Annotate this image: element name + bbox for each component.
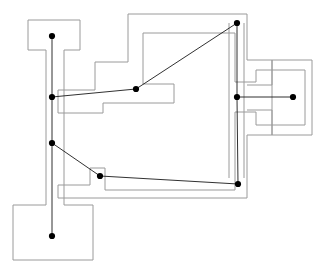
top-left-room-node xyxy=(49,33,55,39)
right-room-node xyxy=(290,94,296,100)
center-hall-node xyxy=(133,86,139,92)
left-upper-corridor-node xyxy=(49,94,55,100)
lower-right-corner-node xyxy=(235,181,241,187)
lower-center-node xyxy=(97,173,103,179)
figure-background xyxy=(0,0,322,272)
left-lower-corridor-node xyxy=(49,140,55,146)
topological-map-figure xyxy=(0,0,322,272)
top-right-corner-node xyxy=(234,20,240,26)
bottom-left-room-node xyxy=(49,233,55,239)
right-corridor-node xyxy=(234,94,240,100)
